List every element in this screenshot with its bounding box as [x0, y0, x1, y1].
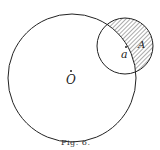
figure-6-diagram: O a A Fig. 6. — [0, 0, 160, 150]
label-region-a: A — [137, 39, 145, 50]
label-a: a — [121, 48, 128, 61]
figure-caption: Fig. 6. — [61, 138, 90, 147]
label-o: O — [66, 73, 76, 87]
center-dot-o — [70, 70, 72, 72]
